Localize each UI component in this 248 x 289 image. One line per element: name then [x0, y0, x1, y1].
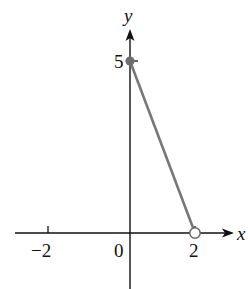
tick-label-neg2: −2: [31, 240, 51, 261]
open-point-2-0: [190, 228, 200, 238]
closed-point-0-5: [125, 56, 134, 65]
y-axis-label: y: [122, 5, 133, 26]
line-segment: [130, 61, 195, 233]
tick-label-0: 0: [114, 240, 124, 261]
tick-label-5: 5: [114, 51, 124, 72]
x-axis-label: x: [236, 223, 246, 244]
tick-label-2: 2: [189, 240, 199, 261]
graph-canvas: y x 5 −2 0 2: [0, 0, 248, 289]
